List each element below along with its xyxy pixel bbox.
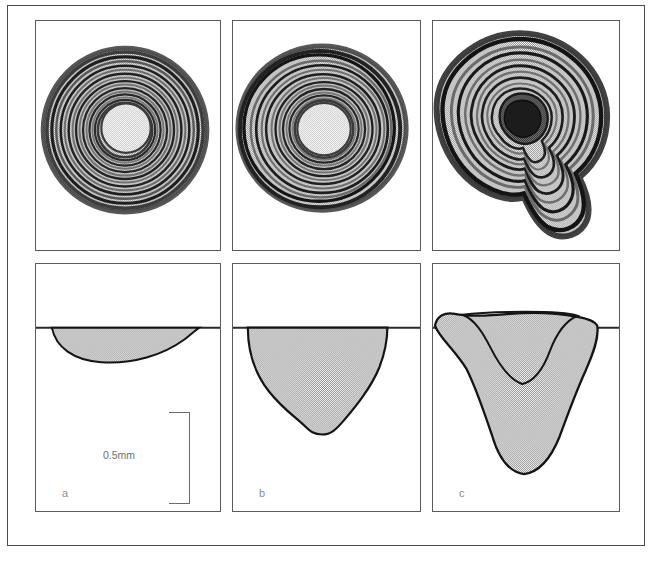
- panel-top-a: [35, 20, 221, 251]
- scale-bar: [169, 412, 190, 504]
- panel-label-a: a: [62, 487, 69, 499]
- panel-label-b: b: [259, 487, 266, 499]
- contour-map-b: [233, 21, 420, 250]
- panel-bottom-c: c: [432, 263, 620, 512]
- contour-map-c: [433, 21, 619, 250]
- panel-top-b: [232, 20, 421, 251]
- fusion-zone-c-outer: [435, 313, 598, 474]
- panel-bottom-a: 0.5mm a: [35, 263, 221, 512]
- fusion-zone-b: [248, 328, 388, 435]
- cross-section-c: [433, 264, 619, 511]
- scale-bar-label: 0.5mm: [103, 449, 135, 461]
- panel-top-c: [432, 20, 620, 251]
- cross-section-a: [36, 264, 220, 511]
- panel-bottom-b: b: [232, 263, 421, 512]
- cross-section-b: [233, 264, 420, 511]
- contour-map-a: [36, 21, 220, 250]
- fusion-zone-a: [52, 328, 199, 363]
- figure-container: 0.5mm a b c: [0, 0, 654, 566]
- panel-label-c: c: [459, 487, 465, 499]
